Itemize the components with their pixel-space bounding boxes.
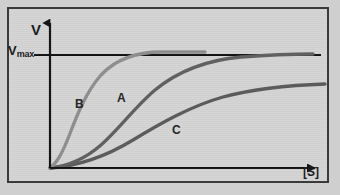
y-axis-label: V: [31, 22, 41, 37]
vmax-axis-label: Vmax: [8, 44, 34, 59]
plot-canvas: [9, 9, 327, 181]
figure-frame: [7, 7, 329, 183]
curve-C: [50, 84, 325, 168]
curve-label-a: A: [117, 92, 126, 104]
plot-svg: [9, 9, 327, 181]
vmax-label-subscript: max: [17, 49, 34, 59]
figure-root: V Vmax [S] B A C: [0, 0, 340, 195]
curve-label-c: C: [172, 124, 181, 136]
vmax-label-main: V: [8, 43, 17, 58]
curve-A: [50, 54, 313, 168]
curve-B: [50, 52, 205, 168]
x-axis-label: [S]: [303, 166, 319, 178]
curve-label-b: B: [75, 98, 84, 110]
